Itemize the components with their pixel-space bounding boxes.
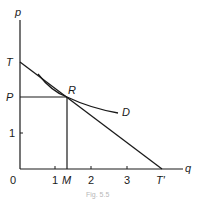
point-label-t: T bbox=[6, 56, 14, 68]
point-label-t-prime: T′ bbox=[156, 174, 166, 186]
x-tick-label-3: 3 bbox=[124, 174, 130, 186]
demand-curve bbox=[38, 74, 118, 113]
origin-label: 0 bbox=[10, 174, 16, 186]
curve-label-d: D bbox=[122, 106, 130, 118]
point-label-m: M bbox=[62, 174, 72, 186]
y-tick-label-1: 1 bbox=[9, 127, 15, 139]
x-tick-label-1: 1 bbox=[52, 174, 58, 186]
figure-caption: Fig. 5.5 bbox=[86, 191, 109, 199]
x-axis-label: q bbox=[185, 162, 192, 174]
y-axis-label: p bbox=[14, 6, 21, 18]
diagram: p q 0 1 2 3 1 T P R M T′ D Fig. 5.5 bbox=[0, 0, 197, 199]
x-tick-label-2: 2 bbox=[88, 174, 94, 186]
point-label-r: R bbox=[68, 84, 76, 96]
point-label-p: P bbox=[6, 91, 14, 103]
